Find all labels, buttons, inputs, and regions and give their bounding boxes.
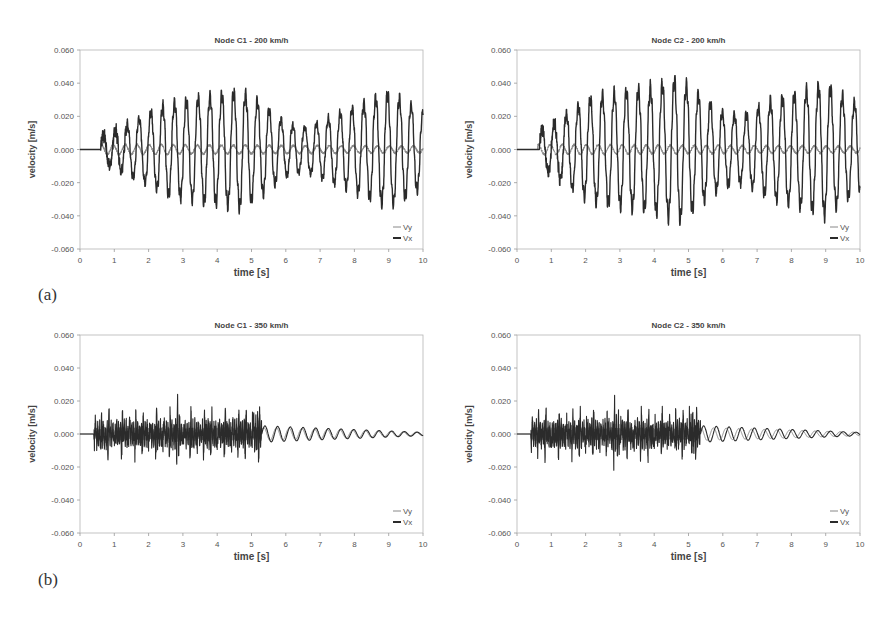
chart-c1-200: Node C1 - 200 km/h0.0600.0400.0200.000-0… [27,36,428,278]
panel-label-b: (b) [38,570,58,590]
y-axis-label: velocity [m/s] [27,121,37,179]
x-tick-label: 9 [823,256,828,265]
x-tick-label: 2 [146,540,151,549]
x-tick-label: 7 [755,256,760,265]
x-tick-label: 6 [284,256,289,265]
y-tick-label: 0.040 [54,79,75,88]
plot-area [517,50,860,249]
y-tick-label: -0.060 [51,245,74,254]
charts-canvas: Node C1 - 200 km/h0.0600.0400.0200.000-0… [0,0,896,624]
x-tick-label: 3 [618,256,623,265]
y-tick-label: 0.040 [491,364,512,373]
legend-label-vx: Vx [840,234,849,243]
y-tick-label: 0.020 [491,397,512,406]
panel-label-a: (a) [38,285,57,305]
y-tick-label: 0.000 [54,146,75,155]
x-tick-label: 4 [652,540,657,549]
y-tick-label: -0.060 [51,529,74,538]
x-tick-label: 5 [249,256,254,265]
x-tick-label: 10 [856,256,865,265]
x-tick-label: 0 [515,256,520,265]
y-tick-label: 0.000 [54,430,75,439]
chart-c2-350: Node C2 - 350 km/h0.0600.0400.0200.000-0… [464,321,865,562]
legend: VyVx [393,507,412,527]
x-axis-label: time [s] [671,267,707,278]
chart-title: Node C2 - 200 km/h [652,36,726,45]
x-tick-label: 5 [686,256,691,265]
y-tick-label: -0.020 [488,463,511,472]
x-tick-label: 8 [789,256,794,265]
legend-label-vx: Vx [403,518,412,527]
chart-c2-200: Node C2 - 200 km/h0.0600.0400.0200.000-0… [464,36,865,278]
y-tick-label: 0.020 [54,397,75,406]
x-tick-label: 0 [78,540,83,549]
x-tick-label: 4 [215,540,220,549]
x-axis-label: time [s] [234,267,270,278]
y-axis-label: velocity [m/s] [27,405,37,463]
y-tick-label: -0.060 [488,245,511,254]
x-tick-label: 1 [549,256,554,265]
x-tick-label: 10 [419,256,428,265]
y-tick-label: -0.060 [488,529,511,538]
legend: VyVx [830,223,849,243]
figure: Node C1 - 200 km/h0.0600.0400.0200.000-0… [0,0,896,624]
x-tick-label: 8 [352,540,357,549]
chart-title: Node C1 - 350 km/h [215,321,289,330]
x-tick-label: 8 [352,256,357,265]
y-tick-label: 0.060 [491,331,512,340]
legend-label-vx: Vx [403,234,412,243]
y-axis-label: velocity [m/s] [464,121,474,179]
x-tick-label: 6 [284,540,289,549]
y-tick-label: 0.060 [54,46,75,55]
series-vx-line [517,76,860,226]
legend: VyVx [830,507,849,527]
x-tick-label: 0 [78,256,83,265]
chart-title: Node C1 - 200 km/h [215,36,289,45]
y-tick-label: 0.060 [491,46,512,55]
x-tick-label: 3 [618,540,623,549]
x-tick-label: 7 [755,540,760,549]
series-vx-line [80,394,423,464]
legend: VyVx [393,223,412,243]
x-tick-label: 9 [386,256,391,265]
x-tick-label: 1 [549,540,554,549]
x-tick-label: 6 [721,540,726,549]
legend-label-vy: Vy [403,507,412,516]
x-tick-label: 10 [419,540,428,549]
plot-area [80,50,423,249]
y-tick-label: 0.040 [54,364,75,373]
legend-label-vx: Vx [840,518,849,527]
y-tick-label: -0.040 [51,212,74,221]
x-tick-label: 2 [583,256,588,265]
x-tick-label: 6 [721,256,726,265]
y-tick-label: -0.040 [51,496,74,505]
series-vy-line [80,144,423,156]
x-tick-label: 2 [583,540,588,549]
legend-label-vy: Vy [840,507,849,516]
x-tick-label: 8 [789,540,794,549]
x-tick-label: 9 [823,540,828,549]
series-vx-line [517,395,860,470]
y-tick-label: -0.020 [488,179,511,188]
y-tick-label: 0.060 [54,331,75,340]
x-tick-label: 7 [318,540,323,549]
x-tick-label: 4 [215,256,220,265]
y-tick-label: 0.000 [491,146,512,155]
y-tick-label: 0.020 [491,112,512,121]
y-tick-label: 0.040 [491,79,512,88]
x-tick-label: 5 [686,540,691,549]
x-tick-label: 1 [112,256,117,265]
x-tick-label: 1 [112,540,117,549]
x-tick-label: 10 [856,540,865,549]
y-tick-label: 0.000 [491,430,512,439]
x-tick-label: 3 [181,540,186,549]
x-tick-label: 2 [146,256,151,265]
x-tick-label: 3 [181,256,186,265]
y-tick-label: 0.020 [54,112,75,121]
x-tick-label: 0 [515,540,520,549]
y-axis-label: velocity [m/s] [464,405,474,463]
x-tick-label: 5 [249,540,254,549]
x-tick-label: 7 [318,256,323,265]
x-tick-label: 9 [386,540,391,549]
legend-label-vy: Vy [403,223,412,232]
